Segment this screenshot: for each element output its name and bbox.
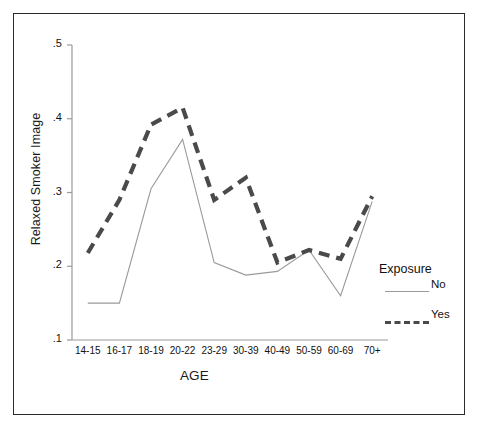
y-tick-label: .5 — [38, 37, 62, 49]
x-axis-title: AGE — [180, 368, 209, 383]
series-line-no — [88, 139, 372, 303]
y-tick-label: .1 — [38, 332, 62, 344]
legend-label-no: No — [431, 278, 446, 290]
legend-entry-yes: Yes — [379, 306, 471, 336]
plot-canvas — [0, 0, 480, 433]
legend: Exposure No Yes — [379, 262, 471, 336]
legend-title: Exposure — [379, 262, 471, 276]
chart-page: .1.2.3.4.5 14-1516-1718-1920-2223-2930-3… — [0, 0, 480, 433]
legend-swatch-yes-icon — [385, 321, 429, 324]
y-tick-label: .2 — [38, 258, 62, 270]
y-tick-marks — [67, 45, 72, 340]
x-tick-label: 70+ — [352, 345, 392, 356]
legend-label-yes: Yes — [431, 308, 450, 320]
legend-entry-no: No — [379, 276, 471, 306]
legend-swatch-no-icon — [385, 291, 429, 292]
y-axis-title: Relaxed Smoker Image — [29, 99, 43, 259]
series-line-yes — [88, 108, 372, 263]
